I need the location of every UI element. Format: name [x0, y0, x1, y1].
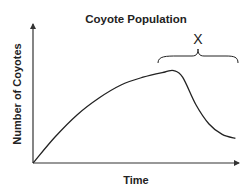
coyote-population-chart: Coyote Population Number of Coyotes Time… — [0, 0, 252, 193]
chart-title: Coyote Population — [85, 13, 187, 25]
x-axis-label: Time — [123, 174, 148, 186]
population-curve — [33, 70, 235, 163]
y-axis-label: Number of Coyotes — [11, 43, 23, 144]
decline-brace — [158, 49, 238, 63]
brace-label-x: X — [193, 31, 203, 47]
